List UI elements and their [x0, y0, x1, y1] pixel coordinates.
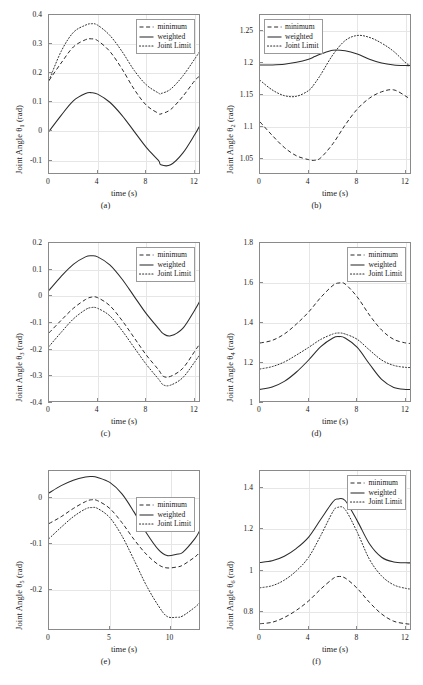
y-axis-label-subscript: 5	[18, 580, 25, 583]
y-axis-label-subscript: 2	[229, 124, 236, 127]
legend-key-solid	[139, 32, 154, 41]
legend-item: weighted	[267, 32, 319, 42]
legend-item: weighted	[350, 260, 402, 270]
panel-label: (e)	[0, 656, 211, 666]
y-axis-label: Joint Angle θ4 (rad)	[225, 333, 236, 402]
legend-item: minimum	[139, 500, 191, 510]
x-axis-label: time (s)	[259, 188, 411, 198]
x-axis-label: time (s)	[48, 188, 200, 198]
plot-area: minimumweightedJoint Limit	[259, 14, 411, 174]
panel-label: (a)	[0, 200, 211, 210]
x-tick-mark	[259, 398, 260, 402]
y-axis-label: Joint Angle θ6 (rad)	[225, 561, 236, 630]
y-tick-mark	[48, 43, 52, 44]
y-tick-mark	[48, 72, 52, 73]
legend-key-dashed	[350, 250, 365, 259]
legend-label: minimum	[368, 478, 398, 488]
legend-label: Joint Limit	[368, 269, 402, 279]
y-tick-label: 1.25	[211, 26, 253, 35]
legend-key-dashed	[139, 250, 154, 259]
legend-item: weighted	[139, 510, 191, 520]
legend-key-dotted	[350, 497, 365, 506]
x-tick-mark	[145, 398, 146, 402]
legend-item: weighted	[350, 488, 402, 498]
y-tick-mark	[48, 295, 52, 296]
x-tick-label: 10	[166, 633, 174, 642]
joint-angle-figure: minimumweightedJoint Limit0.40.30.20.10-…	[0, 0, 423, 685]
legend-item: minimum	[350, 250, 402, 260]
y-axis-label-subscript: 4	[229, 352, 236, 355]
curve-joint-limit	[260, 333, 411, 369]
y-tick-mark	[48, 101, 52, 102]
legend-label: weighted	[157, 32, 185, 42]
y-axis-label-text: Joint Angle θ	[14, 128, 24, 174]
subplot-b: minimumweightedJoint Limit1.251.21.151.1…	[211, 0, 422, 228]
y-tick-mark	[259, 62, 263, 63]
legend-key-solid	[139, 260, 154, 269]
y-tick-label: 1.8	[211, 238, 253, 247]
y-axis-label-unit: (rad)	[14, 333, 24, 352]
legend-key-dashed	[267, 22, 282, 31]
legend: minimumweightedJoint Limit	[264, 19, 323, 54]
y-axis-label-text: Joint Angle θ	[225, 356, 235, 402]
y-tick-mark	[259, 242, 263, 243]
x-tick-label: 0	[257, 633, 261, 642]
subplot-f: minimumweightedJoint Limit1.41.210.80481…	[211, 456, 422, 684]
y-tick-mark	[259, 362, 263, 363]
legend-item: minimum	[350, 478, 402, 488]
y-tick-mark	[259, 322, 263, 323]
legend-key-dotted	[350, 269, 365, 278]
legend-item: minimum	[139, 250, 191, 260]
x-tick-mark	[405, 398, 406, 402]
x-tick-label: 12	[190, 177, 198, 186]
y-tick-mark	[259, 528, 263, 529]
x-tick-label: 8	[143, 405, 147, 414]
x-tick-mark	[97, 170, 98, 174]
y-axis-label-unit: (rad)	[225, 105, 235, 124]
y-axis-label: Joint Angle θ1 (rad)	[14, 105, 25, 174]
legend-label: minimum	[285, 22, 315, 32]
legend: minimumweightedJoint Limit	[347, 475, 406, 510]
legend-key-dotted	[139, 269, 154, 278]
y-tick-mark	[48, 130, 52, 131]
y-tick-label: 1.15	[211, 90, 253, 99]
legend-item: Joint Limit	[350, 269, 402, 279]
x-tick-mark	[308, 170, 309, 174]
x-tick-label: 4	[306, 405, 310, 414]
y-tick-label: 1.4	[211, 482, 253, 491]
x-tick-mark	[48, 626, 49, 630]
y-tick-mark	[48, 349, 52, 350]
x-tick-mark	[356, 170, 357, 174]
y-axis-label: Joint Angle θ3 (rad)	[14, 333, 25, 402]
y-tick-mark	[48, 497, 52, 498]
x-axis-label: time (s)	[259, 644, 411, 654]
y-tick-mark	[48, 14, 52, 15]
x-tick-mark	[48, 170, 49, 174]
legend-label: minimum	[157, 22, 187, 32]
subplot-a: minimumweightedJoint Limit0.40.30.20.10-…	[0, 0, 211, 228]
legend-item: weighted	[139, 260, 191, 270]
x-tick-label: 0	[46, 633, 50, 642]
y-tick-mark	[259, 570, 263, 571]
x-tick-mark	[308, 626, 309, 630]
plot-area: minimumweightedJoint Limit	[259, 242, 411, 402]
y-tick-label: 0.2	[0, 238, 42, 247]
subplot-c: minimumweightedJoint Limit0.20.10-0.1-0.…	[0, 228, 211, 456]
legend-item: minimum	[139, 22, 191, 32]
legend-item: Joint Limit	[350, 497, 402, 507]
legend-item: minimum	[267, 22, 319, 32]
x-tick-label: 0	[46, 177, 50, 186]
legend: minimumweightedJoint Limit	[136, 19, 195, 54]
x-tick-mark	[405, 170, 406, 174]
y-axis-label: Joint Angle θ2 (rad)	[225, 105, 236, 174]
x-axis-label: time (s)	[48, 644, 200, 654]
curve-minimum	[260, 576, 411, 624]
x-tick-mark	[194, 170, 195, 174]
y-tick-label: 1.2	[211, 524, 253, 533]
y-tick-label: 1.2	[211, 58, 253, 67]
panel-label: (f)	[211, 656, 422, 666]
x-tick-label: 4	[306, 633, 310, 642]
legend-label: Joint Limit	[157, 41, 191, 51]
y-tick-mark	[48, 269, 52, 270]
y-tick-mark	[259, 158, 263, 159]
